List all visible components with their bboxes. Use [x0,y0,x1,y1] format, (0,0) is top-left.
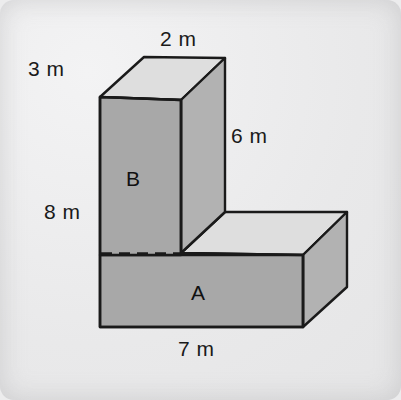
part-label-a: A [191,281,205,305]
dimension-label-top-width: 2 m [160,27,197,51]
prism-b-front-face [100,97,181,255]
dimension-label-total-height: 8 m [44,200,81,224]
dimension-label-base-width: 7 m [178,337,215,361]
figure-page: 2 m 3 m 6 m 8 m 7 m B A [0,0,401,400]
part-label-b: B [126,167,140,191]
dimension-label-upper-height: 6 m [231,124,268,148]
dimension-label-depth: 3 m [28,57,65,81]
